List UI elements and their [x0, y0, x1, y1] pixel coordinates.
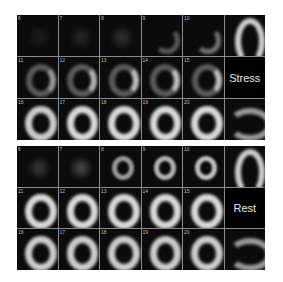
short-axis-slice: 7: [59, 146, 100, 187]
slice-number: 6: [18, 15, 21, 21]
slice-number: 7: [60, 15, 63, 21]
myocardium-ring: [31, 29, 47, 45]
myocardium-ring: [191, 106, 223, 140]
rest-label-cell: Rest: [225, 188, 266, 229]
stress-label: Stress: [229, 72, 260, 84]
myocardium-ring: [154, 156, 176, 180]
short-axis-slice: 20: [183, 99, 224, 140]
slice-number: 20: [184, 229, 190, 235]
short-axis-slice: 6: [17, 146, 58, 187]
myocardium-ring: [67, 106, 99, 140]
myocardium-ring: [112, 156, 134, 180]
myocardium-long-axis: [228, 108, 265, 140]
short-axis-slice: 11: [17, 57, 58, 98]
myocardium-ring: [195, 156, 217, 180]
short-axis-slice: 12: [59, 188, 100, 229]
short-axis-slice: 14: [142, 57, 183, 98]
stress-label-cell: Stress: [225, 57, 266, 98]
short-axis-slice: 13: [100, 57, 141, 98]
short-axis-slice: 10: [183, 146, 224, 187]
slice-number: 7: [60, 146, 63, 152]
myocardium-long-axis: [228, 238, 265, 270]
short-axis-slice: 9: [142, 15, 183, 56]
slice-number: 15: [184, 188, 190, 194]
short-axis-slice: 15: [183, 188, 224, 229]
slice-number: 14: [143, 57, 149, 63]
short-axis-slice: 6: [17, 15, 58, 56]
slice-number: 16: [18, 99, 24, 105]
slice-number: 17: [60, 99, 66, 105]
rest-label: Rest: [233, 202, 256, 214]
myocardium-ring: [150, 106, 182, 140]
slice-number: 8: [101, 15, 104, 21]
myocardium-long-axis: [235, 18, 265, 56]
vertical-long-axis-view: [225, 15, 266, 56]
horizontal-long-axis-view: [225, 99, 266, 140]
myocardium-ring: [73, 29, 89, 45]
slice-number: 17: [60, 229, 66, 235]
myocardium-ring: [25, 106, 57, 140]
slice-number: 18: [101, 99, 107, 105]
short-axis-slice: 7: [59, 15, 100, 56]
myocardium-ring: [114, 29, 130, 45]
slice-number: 8: [101, 146, 104, 152]
short-axis-slice: 17: [59, 229, 100, 270]
myocardium-ring: [150, 64, 180, 97]
short-axis-slice: 18: [100, 229, 141, 270]
myocardium-ring: [150, 194, 182, 228]
short-axis-slice: 13: [100, 188, 141, 229]
short-axis-slice: 16: [17, 229, 58, 270]
myocardium-ring: [150, 236, 182, 270]
slice-number: 11: [18, 57, 23, 63]
myocardium-ring: [26, 64, 56, 97]
vertical-long-axis-view: [225, 146, 266, 187]
short-axis-slice: 10: [183, 15, 224, 56]
slice-number: 10: [184, 146, 190, 152]
short-axis-slice: 20: [183, 229, 224, 270]
rest-grid: 6789101112131415Rest1617181920: [17, 146, 265, 270]
myocardium-ring: [108, 106, 140, 140]
short-axis-slice: 18: [100, 99, 141, 140]
myocardium-ring: [31, 160, 47, 176]
short-axis-slice: 19: [142, 229, 183, 270]
short-axis-slice: 12: [59, 57, 100, 98]
myocardium-ring: [25, 236, 57, 270]
slice-number: 6: [18, 146, 21, 152]
slice-number: 19: [143, 229, 149, 235]
slice-number: 13: [101, 57, 107, 63]
slice-number: 18: [101, 229, 107, 235]
myocardium-ring: [67, 194, 99, 228]
myocardium-ring: [195, 27, 221, 53]
short-axis-slice: 11: [17, 188, 58, 229]
slice-number: 15: [184, 57, 190, 63]
myocardium-ring: [109, 64, 139, 97]
horizontal-long-axis-view: [225, 229, 266, 270]
slice-number: 9: [143, 146, 146, 152]
short-axis-slice: 8: [100, 15, 141, 56]
short-axis-slice: 19: [142, 99, 183, 140]
myocardium-ring: [67, 236, 99, 270]
myocardium-ring: [108, 194, 140, 228]
myocardium-ring: [192, 64, 222, 97]
myocardium-ring: [191, 236, 223, 270]
myocardium-ring: [191, 194, 223, 228]
myocardium-ring: [73, 160, 89, 176]
slice-number: 16: [18, 229, 24, 235]
slice-number: 12: [60, 57, 66, 63]
slice-number: 11: [18, 188, 23, 194]
myocardium-ring: [67, 64, 97, 97]
short-axis-slice: 9: [142, 146, 183, 187]
short-axis-slice: 14: [142, 188, 183, 229]
short-axis-slice: 17: [59, 99, 100, 140]
slice-number: 13: [101, 188, 107, 194]
short-axis-slice: 15: [183, 57, 224, 98]
slice-number: 20: [184, 99, 190, 105]
myocardium-ring: [154, 27, 180, 53]
slice-number: 12: [60, 188, 66, 194]
short-axis-slice: 16: [17, 99, 58, 140]
slice-number: 10: [184, 15, 190, 21]
myocardium-ring: [108, 236, 140, 270]
myocardium-long-axis: [235, 149, 265, 186]
slice-number: 14: [143, 188, 149, 194]
myocardium-ring: [25, 194, 57, 228]
